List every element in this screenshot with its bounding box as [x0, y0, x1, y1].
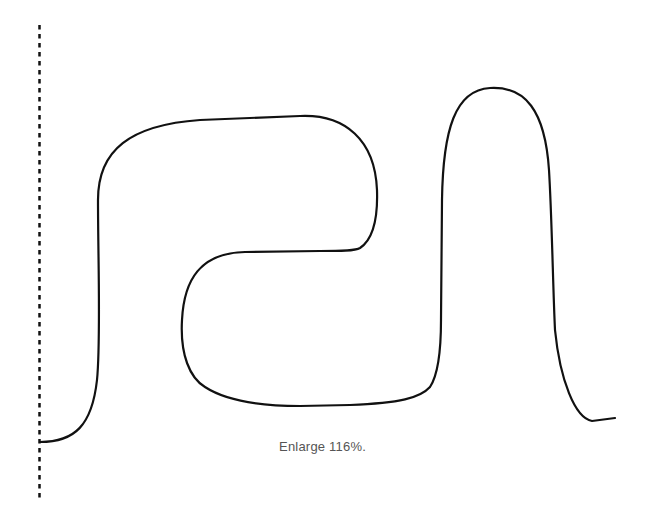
meander-curve: [40, 88, 615, 442]
figure-caption: Enlarge 116%.: [0, 439, 645, 454]
